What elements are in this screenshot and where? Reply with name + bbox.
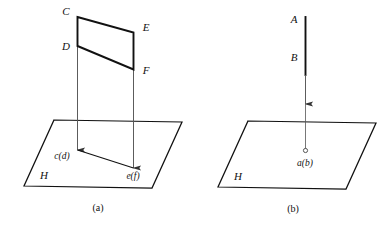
figure-canvas: C D E F c(d) e(f) H (a) A B (0, 0, 388, 227)
caption-panel-a: (a) (92, 202, 103, 214)
technical-drawing-figure: C D E F c(d) e(f) H (a) A B (0, 0, 388, 227)
projection-segment-a (78, 150, 134, 168)
label-point-b: B (291, 51, 298, 63)
panel-a: C D E F c(d) e(f) H (a) (24, 5, 182, 214)
foot-point-marker-ab (303, 148, 307, 152)
label-foot-cd: c(d) (54, 151, 69, 162)
label-point-f: F (142, 64, 150, 76)
panel-b: A B a(b) H (b) (218, 13, 376, 215)
label-foot-ab: a(b) (297, 158, 313, 169)
caption-panel-b: (b) (287, 203, 299, 215)
quadrilateral-cefd (78, 17, 134, 70)
label-foot-ef: e(f) (126, 171, 139, 182)
label-point-a: A (290, 13, 298, 25)
label-point-c: C (62, 5, 70, 17)
label-plane-h-b: H (233, 170, 243, 182)
label-point-e: E (142, 21, 150, 33)
label-point-d: D (61, 40, 70, 52)
label-plane-h-a: H (39, 169, 49, 181)
